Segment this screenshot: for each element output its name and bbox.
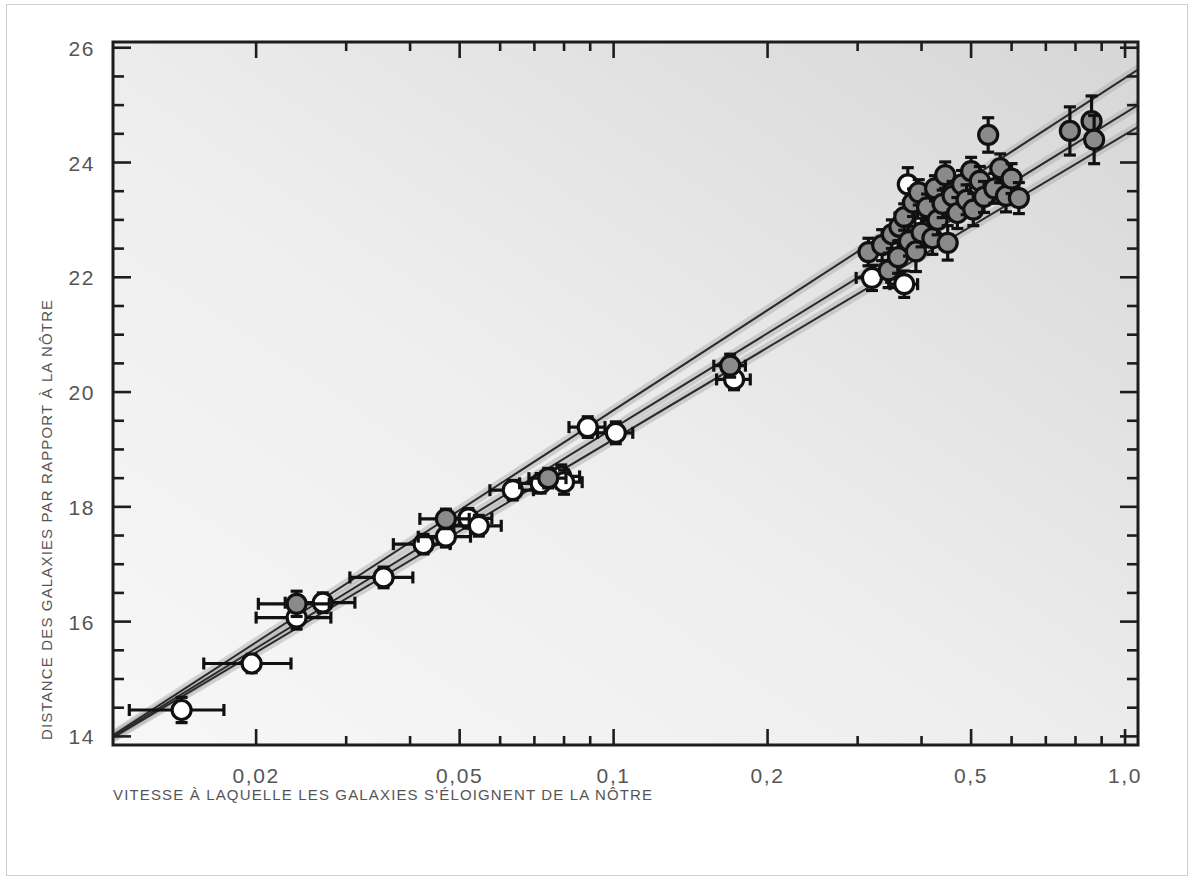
open-circle-marker — [578, 418, 597, 437]
y-tick-label: 18 — [68, 496, 95, 519]
open-circle-marker — [469, 516, 488, 535]
filled-circle-marker — [979, 125, 998, 144]
y-tick-label: 24 — [68, 152, 95, 175]
x-tick-label: 1,0 — [1108, 764, 1142, 787]
filled-circle-marker — [1060, 121, 1079, 140]
x-tick-label: 0,02 — [232, 764, 279, 787]
x-tick-label: 0,1 — [597, 764, 631, 787]
open-circle-marker — [374, 568, 393, 587]
open-circle-marker — [895, 275, 914, 294]
y-tick-label: 16 — [68, 611, 95, 634]
y-tick-label: 20 — [68, 381, 95, 404]
open-circle-marker — [606, 423, 625, 442]
filled-circle-marker — [938, 233, 957, 252]
open-circle-marker — [172, 700, 191, 719]
y-tick-label: 22 — [68, 266, 95, 289]
y-axis-title: DISTANCE DES GALAXIES PAR RAPPORT À LA N… — [38, 299, 55, 740]
filled-circle-marker — [1009, 189, 1028, 208]
open-circle-marker — [242, 654, 261, 673]
x-axis-title: VITESSE À LAQUELLE LES GALAXIES S'ÉLOIGN… — [113, 786, 653, 803]
filled-circle-marker — [721, 356, 740, 375]
chart-canvas: 0,020,050,10,20,51,014161820222426 VITES… — [0, 0, 1194, 882]
y-tick-label: 14 — [68, 725, 95, 748]
filled-circle-marker — [436, 509, 455, 528]
filled-circle-marker — [1085, 130, 1104, 149]
y-tick-label: 26 — [68, 37, 95, 60]
x-tick-label: 0,05 — [436, 764, 483, 787]
hubble-diagram-figure: 0,020,050,10,20,51,014161820222426 VITES… — [0, 0, 1194, 882]
filled-circle-marker — [287, 594, 306, 613]
x-tick-label: 0,2 — [751, 764, 785, 787]
x-tick-label: 0,5 — [954, 764, 988, 787]
filled-circle-marker — [539, 469, 558, 488]
